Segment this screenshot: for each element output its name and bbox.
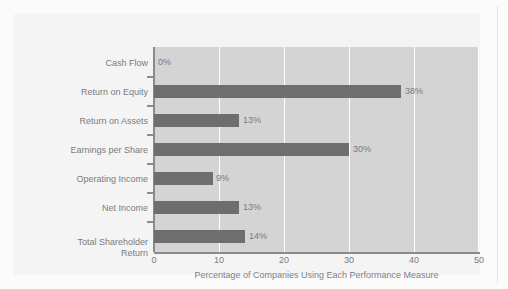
bar-value-cash-flow: 0% bbox=[158, 56, 171, 69]
category-label-net-income: Net Income bbox=[34, 203, 148, 214]
category-label-text: Cash Flow bbox=[105, 58, 148, 68]
bar-return-on-assets bbox=[154, 114, 239, 127]
x-axis-title: Percentage of Companies Using Each Perfo… bbox=[154, 270, 479, 280]
x-tick-label-0: 0 bbox=[134, 255, 174, 265]
category-label-earnings-per-share: Earnings per Share bbox=[34, 145, 148, 156]
x-tick-label-10: 10 bbox=[199, 255, 239, 265]
page-edge-rule bbox=[497, 6, 498, 283]
x-tick-label-20: 20 bbox=[264, 255, 304, 265]
category-label-text: Earnings per Share bbox=[70, 145, 148, 155]
figure-page: Cash Flow Return on Equity Return on Ass… bbox=[0, 0, 508, 289]
category-label-text: Return on Assets bbox=[79, 116, 148, 126]
bar-value-return-on-equity: 38% bbox=[405, 85, 423, 98]
bar-value-operating-income: 9% bbox=[216, 172, 229, 185]
bar-value-total-shareholder-return: 14% bbox=[249, 230, 267, 243]
bar-operating-income bbox=[154, 172, 213, 185]
y-tick bbox=[147, 163, 154, 165]
bar-total-shareholder-return bbox=[154, 230, 245, 243]
x-tick-label-40: 40 bbox=[394, 255, 434, 265]
y-tick bbox=[147, 76, 154, 78]
bar-return-on-equity bbox=[154, 85, 401, 98]
x-tick-label-50: 50 bbox=[459, 255, 499, 265]
category-label-cash-flow: Cash Flow bbox=[34, 58, 148, 69]
x-tick-label-30: 30 bbox=[329, 255, 369, 265]
y-tick bbox=[147, 192, 154, 194]
bar-net-income bbox=[154, 201, 239, 214]
category-label-return-on-assets: Return on Assets bbox=[34, 116, 148, 127]
gridline-50 bbox=[478, 47, 479, 252]
figure-panel: Cash Flow Return on Equity Return on Ass… bbox=[14, 14, 480, 275]
category-label-operating-income: Operating Income bbox=[34, 174, 148, 185]
category-label-total-shareholder-return: Total Shareholder Return bbox=[34, 226, 148, 259]
y-tick bbox=[147, 105, 154, 107]
x-axis-line bbox=[154, 252, 480, 254]
y-tick bbox=[147, 221, 154, 223]
category-label-text: Net Income bbox=[102, 203, 148, 213]
category-label-return-on-equity: Return on Equity bbox=[34, 87, 148, 98]
gridline-40 bbox=[414, 47, 415, 252]
bar-value-earnings-per-share: 30% bbox=[353, 143, 371, 156]
category-label-text: Return on Equity bbox=[81, 87, 148, 97]
bar-value-return-on-assets: 13% bbox=[243, 114, 261, 127]
bar-value-net-income: 13% bbox=[243, 201, 261, 214]
gridline-30 bbox=[349, 47, 350, 252]
y-tick bbox=[147, 134, 154, 136]
category-label-text: Operating Income bbox=[76, 174, 148, 184]
bar-earnings-per-share bbox=[154, 143, 349, 156]
